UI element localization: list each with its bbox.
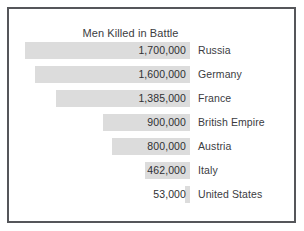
- bar-category-label: Italy: [198, 162, 218, 179]
- bar-row: 800,000Austria: [9, 136, 298, 160]
- chart-title: Men Killed in Battle: [9, 27, 298, 39]
- bar-row: 462,000Italy: [9, 160, 298, 184]
- bar-category-label: Germany: [198, 66, 242, 83]
- bar-track: 1,700,000: [25, 42, 190, 59]
- bar-value-label: 462,000: [147, 162, 186, 179]
- bar-category-label: United States: [198, 186, 262, 203]
- bar-category-label: British Empire: [198, 114, 265, 131]
- bar-track: 1,600,000: [25, 66, 190, 83]
- bar-row: 900,000British Empire: [9, 112, 298, 136]
- bar-value-label: 900,000: [147, 114, 186, 131]
- bar-track: 53,000: [25, 186, 190, 203]
- bar-value-label: 1,385,000: [138, 90, 186, 107]
- bar-value-label: 1,600,000: [138, 66, 186, 83]
- chart-frame: Men Killed in Battle 1,700,000Russia1,60…: [7, 7, 296, 223]
- bar-row: 1,600,000Germany: [9, 64, 298, 88]
- bar-value-label: 53,000: [153, 186, 186, 203]
- bar-row: 1,385,000France: [9, 88, 298, 112]
- bar-category-label: France: [198, 90, 231, 107]
- bar-track: 462,000: [25, 162, 190, 179]
- bar-category-label: Austria: [198, 138, 231, 155]
- bar-chart-plot-area: 1,700,000Russia1,600,000Germany1,385,000…: [9, 40, 298, 208]
- bar-track: 800,000: [25, 138, 190, 155]
- bar-track: 1,385,000: [25, 90, 190, 107]
- bar-value-label: 800,000: [147, 138, 186, 155]
- bar-row: 53,000United States: [9, 184, 298, 208]
- bar-row: 1,700,000Russia: [9, 40, 298, 64]
- bar-value-label: 1,700,000: [138, 42, 186, 59]
- chart-figure: Men Killed in Battle 1,700,000Russia1,60…: [0, 0, 304, 231]
- bar-track: 900,000: [25, 114, 190, 131]
- bar-category-label: Russia: [198, 42, 231, 59]
